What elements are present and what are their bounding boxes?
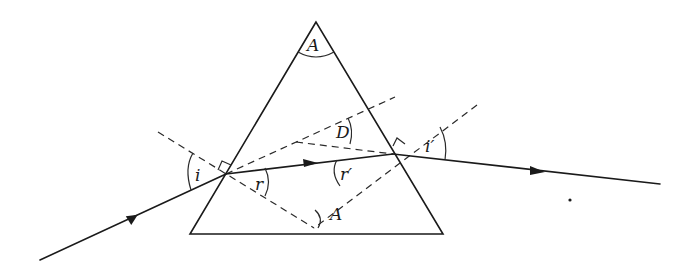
emergent-ray <box>393 154 660 184</box>
incidence-angle-arc <box>188 153 193 190</box>
normal-at-entry <box>158 132 314 228</box>
deviation-label: D <box>335 122 350 142</box>
normal-angle-label: A <box>328 204 342 224</box>
apex-angle-label: A <box>305 35 319 55</box>
stray-dot <box>568 198 571 201</box>
arrow-icon-refracted <box>303 159 318 167</box>
emergence-label: i′ <box>425 136 434 156</box>
normal-angle-arc <box>315 210 320 228</box>
emergent-ray-extension <box>296 142 393 154</box>
right-angle-marker-exit <box>393 138 405 146</box>
refraction-angle-arc <box>265 168 269 196</box>
refraction-label: r <box>255 174 264 194</box>
incidence-label: i <box>195 165 200 185</box>
second-refraction-label: r′ <box>340 164 352 184</box>
emergence-angle-arc <box>440 127 446 160</box>
prism-diagram: A i r r′ A D i′ <box>0 0 693 271</box>
